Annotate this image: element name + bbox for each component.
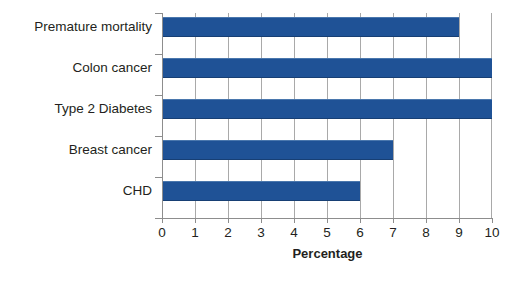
- x-axis-tick-labels: 0 1 2 3 4 5 6 7 8 9 10: [0, 224, 518, 244]
- x-axis-tick: [426, 218, 427, 223]
- x-tick-label-8: 8: [411, 224, 441, 242]
- category-label-chd: CHD: [123, 181, 152, 201]
- x-axis-tick: [360, 218, 361, 223]
- category-label-type-2-diabetes: Type 2 Diabetes: [54, 99, 152, 119]
- bar-colon-cancer: [162, 58, 492, 78]
- x-axis-tick: [492, 218, 493, 223]
- y-axis-tick: [155, 177, 162, 178]
- x-tick-label-3: 3: [246, 224, 276, 242]
- bar-breast-cancer: [162, 140, 393, 160]
- category-label-colon-cancer: Colon cancer: [72, 58, 152, 78]
- x-axis-title: Percentage: [162, 246, 493, 261]
- x-axis-tick: [327, 218, 328, 223]
- x-axis-tick: [195, 218, 196, 223]
- x-axis-tick: [162, 218, 163, 223]
- y-axis-line: [162, 13, 163, 219]
- x-axis-tick: [228, 218, 229, 223]
- bar-chart: Premature mortality Colon cancer Type 2 …: [0, 0, 518, 282]
- y-axis-tick: [155, 218, 162, 219]
- x-tick-label-2: 2: [213, 224, 243, 242]
- x-axis-tick: [459, 218, 460, 223]
- y-axis-tick: [155, 136, 162, 137]
- x-tick-label-0: 0: [147, 224, 177, 242]
- bar-chd: [162, 181, 360, 201]
- category-axis-labels: Premature mortality Colon cancer Type 2 …: [0, 13, 158, 218]
- x-tick-label-7: 7: [378, 224, 408, 242]
- x-tick-label-6: 6: [345, 224, 375, 242]
- x-tick-label-1: 1: [180, 224, 210, 242]
- x-tick-label-4: 4: [279, 224, 309, 242]
- bar-type-2-diabetes: [162, 99, 492, 119]
- y-axis-tick: [155, 13, 162, 14]
- bar-premature-mortality: [162, 17, 459, 37]
- y-axis-tick: [155, 54, 162, 55]
- x-tick-label-9: 9: [444, 224, 474, 242]
- x-tick-label-10: 10: [477, 224, 507, 242]
- x-axis-tick: [393, 218, 394, 223]
- y-axis-tick: [155, 95, 162, 96]
- plot-area: [162, 13, 492, 218]
- category-label-premature-mortality: Premature mortality: [34, 17, 152, 37]
- x-axis-tick: [294, 218, 295, 223]
- x-tick-label-5: 5: [312, 224, 342, 242]
- x-axis-tick: [261, 218, 262, 223]
- category-label-breast-cancer: Breast cancer: [69, 140, 152, 160]
